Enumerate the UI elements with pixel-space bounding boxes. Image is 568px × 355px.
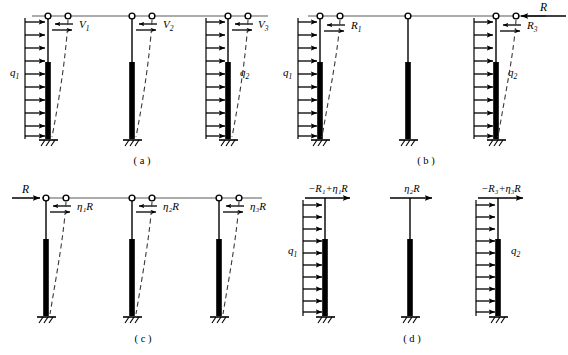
column-solid-segment xyxy=(45,62,51,139)
hinge-icon xyxy=(225,13,231,19)
hinge-icon xyxy=(129,13,135,19)
panel-a-caption: ( a ) xyxy=(134,155,151,167)
panel-c-caption: ( c ) xyxy=(135,333,152,345)
hinge-icon xyxy=(45,13,51,19)
column-solid-segment xyxy=(129,239,135,316)
column-solid-segment xyxy=(407,239,413,316)
hinge-icon xyxy=(216,195,222,201)
column-solid-segment xyxy=(322,239,328,316)
hinge-icon xyxy=(65,13,71,19)
column-solid-segment xyxy=(129,62,135,139)
hinge-icon xyxy=(149,195,155,201)
top-force-label-1: −R₁+η₁R xyxy=(308,183,348,194)
shear-label-eta1R: η₁R xyxy=(77,200,93,212)
column-solid-segment xyxy=(405,62,411,139)
hinge-icon xyxy=(493,13,499,19)
hinge-icon xyxy=(405,13,411,19)
hinge-icon xyxy=(63,195,69,201)
force-label-R: R xyxy=(21,183,29,195)
hinge-icon xyxy=(317,13,323,19)
canvas-background xyxy=(0,0,568,355)
column-solid-segment xyxy=(493,62,499,139)
column-solid-segment xyxy=(43,239,49,316)
structural-frame-figure: q1 V1 V2 xyxy=(0,0,568,355)
panel-d-caption: ( d ) xyxy=(403,333,421,345)
panel-b-caption: ( b ) xyxy=(417,155,435,167)
hinge-icon xyxy=(513,13,519,19)
force-label-R: R xyxy=(539,1,547,13)
hinge-icon xyxy=(129,195,135,201)
top-force-label-2: η₂R xyxy=(404,183,420,194)
hinge-icon xyxy=(245,13,251,19)
top-force-label-3: −R₃+η₃R xyxy=(481,183,521,194)
hinge-icon xyxy=(149,13,155,19)
column-solid-segment xyxy=(317,62,323,139)
hinge-icon xyxy=(236,195,242,201)
column-solid-segment xyxy=(495,239,501,316)
hinge-icon xyxy=(337,13,343,19)
column-solid-segment xyxy=(216,239,222,316)
hinge-icon xyxy=(43,195,49,201)
shear-label-eta2R: η₂R xyxy=(163,200,179,212)
shear-label-eta3R: η₃R xyxy=(250,200,266,212)
column-solid-segment xyxy=(225,62,231,139)
figure-svg: q1 V1 V2 xyxy=(0,0,568,355)
